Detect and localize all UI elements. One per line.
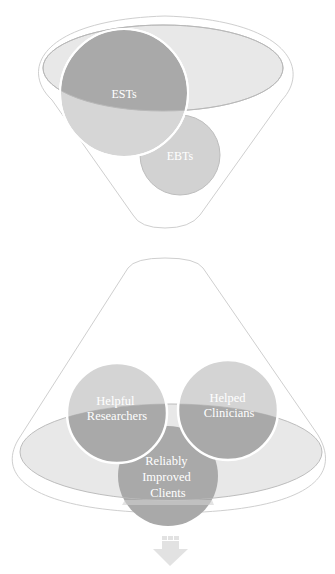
bottom-funnel: Helpful Researchers Helped Clinicians Re…	[12, 258, 325, 526]
down-arrow-icon	[153, 536, 188, 566]
helped-clinicians-label: Helped Clinicians	[204, 391, 255, 420]
funnel-diagram: ESTs EBTs Helpful Researchers Helped Cli…	[0, 0, 335, 574]
ebts-label: EBTs	[167, 149, 194, 163]
ests-label: ESTs	[111, 87, 136, 101]
top-funnel: ESTs EBTs	[38, 16, 293, 228]
